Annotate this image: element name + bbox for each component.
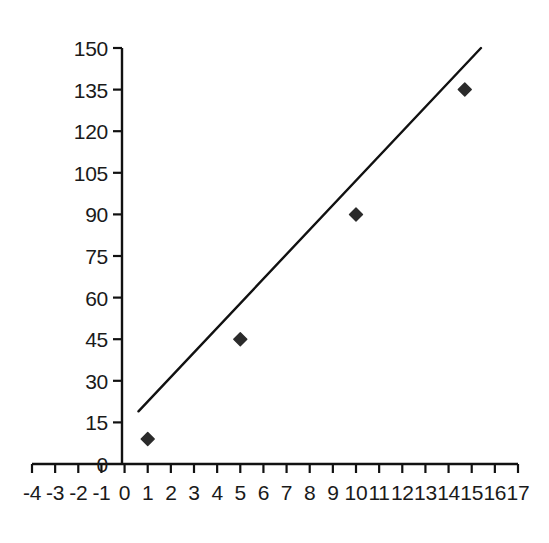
x-tick-label: -4	[23, 482, 41, 503]
x-tick-label: 12	[391, 482, 414, 503]
x-tick-label: 9	[327, 482, 338, 503]
y-tick-label: 30	[0, 370, 108, 391]
y-tick-label: 105	[0, 162, 108, 183]
x-tick-label: 17	[507, 482, 530, 503]
y-tick-label: 60	[0, 287, 108, 308]
x-tick-label: 2	[165, 482, 176, 503]
y-tick-label: 90	[0, 204, 108, 225]
x-tick-label: 0	[119, 482, 130, 503]
series-group	[138, 48, 481, 446]
x-tick-label: 8	[304, 482, 315, 503]
y-tick-label: 15	[0, 412, 108, 433]
x-tick-label: -3	[46, 482, 64, 503]
data-point-marker	[350, 208, 363, 221]
x-tick-label: 11	[369, 482, 390, 503]
x-tick-label: -2	[69, 482, 87, 503]
x-tick-label: -1	[92, 482, 110, 503]
data-point-marker	[234, 333, 247, 346]
x-tick-label: 4	[211, 482, 222, 503]
y-tick-label: 0	[0, 454, 108, 475]
y-tick-label: 150	[0, 38, 108, 59]
y-tick-label: 120	[0, 121, 108, 142]
x-tick-label: 5	[235, 482, 246, 503]
x-tick-label: 13	[414, 482, 437, 503]
x-tick-label: 7	[281, 482, 292, 503]
data-point-marker	[458, 83, 471, 96]
x-tick-label: 16	[483, 482, 506, 503]
x-tick-label: 1	[142, 482, 153, 503]
data-point-marker	[141, 433, 154, 446]
y-tick-label: 45	[0, 329, 108, 350]
y-tick-label: 75	[0, 246, 108, 267]
x-tick-label: 15	[460, 482, 483, 503]
y-tick-label: 135	[0, 79, 108, 100]
x-tick-label: 3	[188, 482, 199, 503]
x-tick-label: 6	[258, 482, 269, 503]
chart-container: Scatter plot with four dark diamond mark…	[0, 0, 549, 543]
trend-line	[138, 48, 481, 411]
x-tick-label: 10	[345, 482, 368, 503]
x-tick-label: 14	[437, 482, 460, 503]
